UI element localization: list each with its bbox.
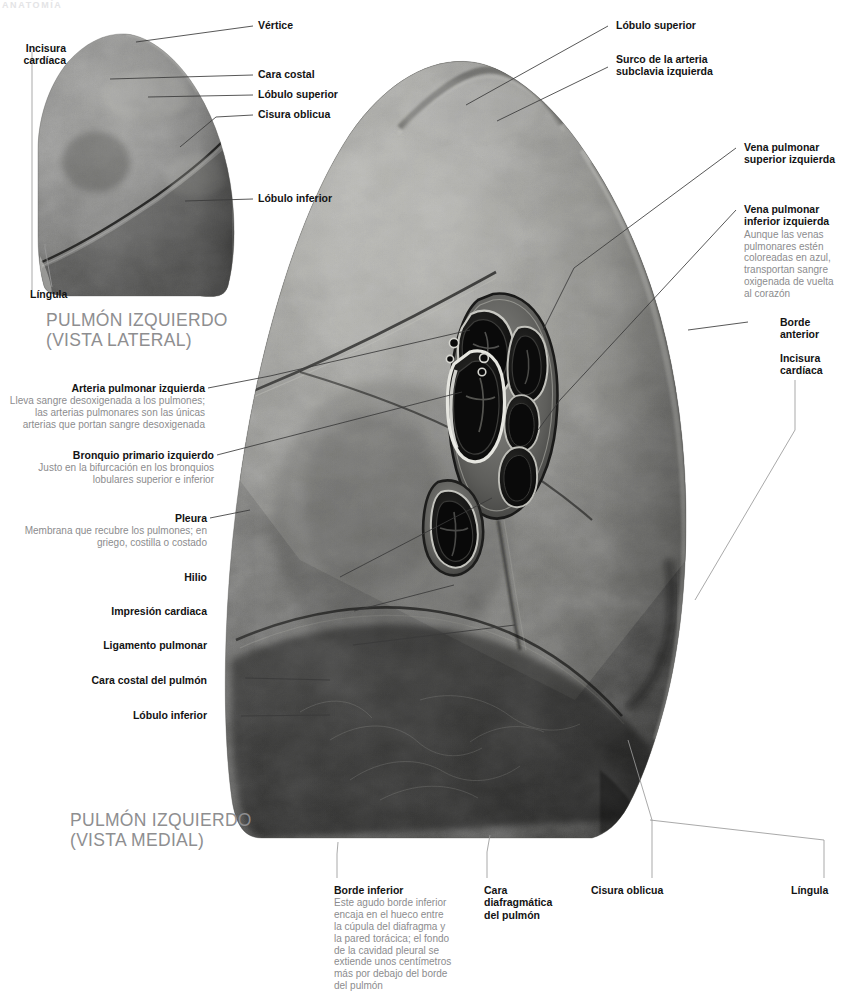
- label-bronquio-primario-desc: Justo en la bifurcación en los bronquios…: [0, 462, 214, 486]
- label-arteria-pulmonar-desc: Lleva sangre desoxigenada a los pulmones…: [0, 395, 205, 430]
- label-lobulo-inferior-lateral: Lóbulo inferior: [258, 192, 332, 204]
- label-impresion-cardiaca: Impresión cardiaca: [0, 605, 207, 617]
- caption-medial-line1: PULMÓN IZQUIERDO: [70, 810, 252, 830]
- caption-medial-line2: (VISTA MEDIAL): [70, 830, 252, 850]
- label-pleura-desc: Membrana que recubre los pulmones; en gr…: [0, 525, 207, 549]
- label-hilio: Hilio: [0, 571, 207, 583]
- caption-lateral-line1: PULMÓN IZQUIERDO: [46, 310, 228, 330]
- label-cisura-oblicua-lateral: Cisura oblicua: [258, 108, 330, 120]
- label-borde-inferior-desc: Este agudo borde inferior encaja en el h…: [334, 897, 454, 991]
- superior-pulmonary-vein-cut: [508, 327, 548, 403]
- label-vena-pulmonar-superior-izquierda: Vena pulmonar superior izquierda: [744, 141, 849, 166]
- left-primary-bronchus-cut: [447, 351, 504, 462]
- label-ligamento-pulmonar: Ligamento pulmonar: [0, 639, 207, 651]
- lower-bronchovascular-cut: [423, 480, 483, 575]
- label-lingula-medial: Língula: [791, 884, 828, 896]
- label-lobulo-inferior-medial: Lóbulo inferior: [0, 709, 207, 721]
- label-borde-anterior: Borde anterior: [780, 316, 849, 341]
- label-cara-costal: Cara costal: [258, 68, 315, 80]
- label-incisura-cardiaca-medial: Incisura cardíaca: [780, 352, 849, 377]
- label-arteria-pulmonar-izquierda: Arteria pulmonar izquierda Lleva sangre …: [0, 382, 205, 431]
- caption-medial-view: PULMÓN IZQUIERDO (VISTA MEDIAL): [70, 810, 252, 850]
- caption-lateral-line2: (VISTA LATERAL): [46, 330, 228, 350]
- label-bronquio-primario-izquierdo: Bronquio primario izquierdo Justo en la …: [0, 449, 214, 486]
- label-vertice: Vértice: [258, 19, 293, 31]
- label-pleura: Pleura Membrana que recubre los pulmones…: [0, 512, 207, 549]
- label-lobulo-superior-medial: Lóbulo superior: [616, 19, 696, 31]
- bronchial-branch-cut: [504, 395, 539, 452]
- label-lingula-lateral: Língula: [30, 288, 67, 300]
- label-vena-pulmonar-inferior-desc: Aunque las venas pulmonares estén colore…: [744, 229, 844, 300]
- caption-lateral-view: PULMÓN IZQUIERDO (VISTA LATERAL): [46, 310, 228, 350]
- inferior-pulmonary-vein-cut: [499, 447, 537, 507]
- label-borde-inferior: Borde inferior Este agudo borde inferior…: [334, 884, 454, 992]
- label-vena-pulmonar-inferior-izquierda: Vena pulmonar inferior izquierda Aunque …: [744, 203, 844, 300]
- label-lobulo-superior-lateral: Lóbulo superior: [258, 88, 338, 100]
- label-cara-costal-del-pulmon: Cara costal del pulmón: [0, 674, 207, 686]
- label-incisura-cardiaca-lateral: Incisura cardíaca: [0, 42, 66, 67]
- label-cisura-oblicua-medial: Cisura oblicua: [591, 884, 663, 896]
- label-surco-arteria-subclavia: Surco de la arteria subclavia izquierda: [616, 53, 713, 78]
- label-cara-diafragmatica-del-pulmon: Cara diafragmática del pulmón: [484, 884, 574, 921]
